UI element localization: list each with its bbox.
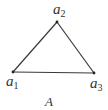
edge-a2-a3: [57, 22, 94, 73]
vertex-a3-point: [93, 72, 96, 75]
diagram-caption: A: [44, 94, 53, 109]
edge-a1-a2: [13, 22, 57, 72]
triangle-diagram: a2 a1 a3 A: [0, 0, 108, 110]
vertex-a1-label: a1: [6, 73, 19, 91]
edge-a1-a3: [13, 72, 94, 73]
vertex-a3-label: a3: [90, 75, 103, 93]
vertex-a2-label: a2: [53, 1, 66, 19]
vertex-a2-point: [56, 21, 59, 24]
